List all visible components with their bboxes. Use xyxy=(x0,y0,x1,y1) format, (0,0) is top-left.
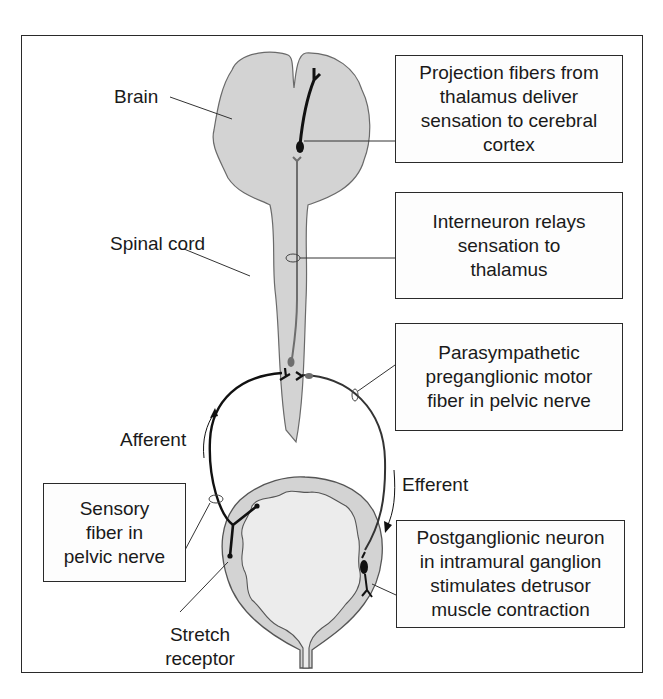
callout-line: in intramural ganglion xyxy=(416,550,604,574)
thalamic-neuron-cell-body xyxy=(296,141,304,153)
stretch-receptor-label: Stretch receptor xyxy=(150,623,250,671)
callout-line: thalamus deliver xyxy=(419,85,599,109)
callout-postganglionic-neuron: Postganglionic neuron in intramural gang… xyxy=(396,520,625,628)
callout-line: Interneuron relays xyxy=(432,210,585,234)
callout-line: sensation to cerebral xyxy=(419,109,599,133)
stretch-receptor-line2: receptor xyxy=(150,647,250,671)
callout-line: Sensory xyxy=(64,497,165,521)
efferent-arrow xyxy=(387,470,395,527)
callout-line: Postganglionic neuron xyxy=(416,526,604,550)
spinal-cord-label: Spinal cord xyxy=(110,232,205,256)
receptor-ending-upper xyxy=(254,503,259,508)
brain-and-spinal-cord-shape xyxy=(213,52,370,442)
callout-line: cortex xyxy=(419,133,599,157)
afferent-label: Afferent xyxy=(120,428,186,452)
stretch-receptor-line1: Stretch xyxy=(150,623,250,647)
preganglionic-cell-body xyxy=(305,373,313,379)
postganglionic-cell-body xyxy=(360,560,368,574)
callout-line: pelvic nerve xyxy=(64,545,165,569)
bladder-lumen xyxy=(242,491,361,668)
callout-interneuron: Interneuron relays sensation to thalamus xyxy=(395,192,623,299)
efferent-label: Efferent xyxy=(402,473,468,497)
callout-projection-fibers: Projection fibers from thalamus deliver … xyxy=(395,55,623,163)
callout-line: fiber in pelvic nerve xyxy=(426,389,593,413)
receptor-ending-lower xyxy=(227,553,232,558)
callout-line: fiber in xyxy=(64,521,165,545)
callout-line: thalamus xyxy=(432,258,585,282)
callout-sensory-fiber: Sensory fiber in pelvic nerve xyxy=(43,483,186,582)
callout-line: Projection fibers from xyxy=(419,61,599,85)
brain-label: Brain xyxy=(114,85,158,109)
callout-line: muscle contraction xyxy=(416,598,604,622)
efferent-arrowhead xyxy=(384,521,392,533)
callout-parasympathetic-preganglionic: Parasympathetic preganglionic motor fibe… xyxy=(395,323,623,431)
callout-line: preganglionic motor xyxy=(426,365,593,389)
callout-line: sensation to xyxy=(432,234,585,258)
callout-line: Parasympathetic xyxy=(426,341,593,365)
interneuron-cell-body xyxy=(288,357,295,367)
callout-line: stimulates detrusor xyxy=(416,574,604,598)
